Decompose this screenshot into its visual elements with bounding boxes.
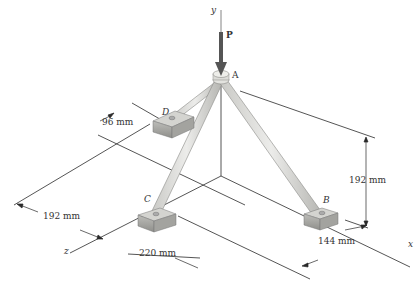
x-axis-label: x	[408, 240, 413, 249]
support-D	[153, 111, 194, 138]
y-axis-label: y	[211, 6, 216, 15]
support-C	[138, 208, 176, 232]
dim-192-left-label: 192 mm	[43, 212, 80, 221]
members	[151, 71, 323, 218]
z-axis-label: z	[64, 247, 69, 256]
support-B	[304, 208, 338, 230]
ground-lines	[14, 91, 410, 279]
point-C-label: C	[144, 195, 151, 204]
point-B-label: B	[323, 196, 330, 205]
dim-220-label: 220 mm	[139, 249, 176, 258]
tripod-diagram	[0, 0, 419, 282]
member-AC	[151, 82, 222, 215]
point-D-label: D	[162, 108, 169, 117]
dim-96-label: 96 mm	[102, 118, 133, 127]
load-P-label: P	[226, 31, 233, 40]
dim-192-height-label: 192 mm	[349, 176, 386, 185]
point-A-label: A	[232, 71, 239, 80]
member-AB	[219, 80, 323, 217]
dim-144-label: 144 mm	[318, 237, 355, 246]
